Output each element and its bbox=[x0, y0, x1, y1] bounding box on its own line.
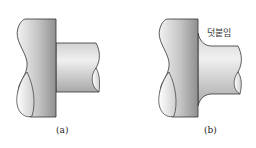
figure-b-filleted-shoulder: 덧붙임 (b) bbox=[159, 19, 242, 135]
fillet-annotation: 덧붙임 bbox=[207, 27, 231, 38]
caption-a: (a) bbox=[56, 125, 68, 135]
figure-a-sharp-shoulder: (a) bbox=[17, 19, 100, 135]
shaft-b bbox=[198, 33, 241, 106]
diagram-canvas: (a) 덧붙임 (b) bbox=[0, 0, 256, 148]
caption-b: (b) bbox=[204, 125, 217, 135]
